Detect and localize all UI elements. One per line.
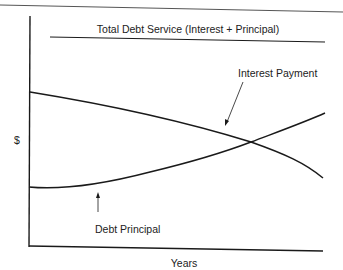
interest-payment-label: Interest Payment <box>238 67 317 79</box>
diagram-canvas: Total Debt Service (Interest + Principal… <box>0 0 343 270</box>
x-axis-label: Years <box>171 257 197 269</box>
y-axis <box>29 16 30 247</box>
total-debt-service-line <box>50 37 325 42</box>
y-axis-label: $ <box>14 134 20 146</box>
debt-principal-curve <box>29 113 325 188</box>
x-axis <box>29 246 323 251</box>
interest-arrow-shaft <box>227 82 243 122</box>
debt-service-diagram: Total Debt Service (Interest + Principal… <box>0 0 343 270</box>
debt-principal-label: Debt Principal <box>95 223 160 235</box>
total-debt-service-label: Total Debt Service (Interest + Principal… <box>97 23 279 35</box>
top-border <box>0 5 343 12</box>
principal-arrow-head <box>96 192 100 198</box>
interest-arrow-head <box>225 119 229 126</box>
